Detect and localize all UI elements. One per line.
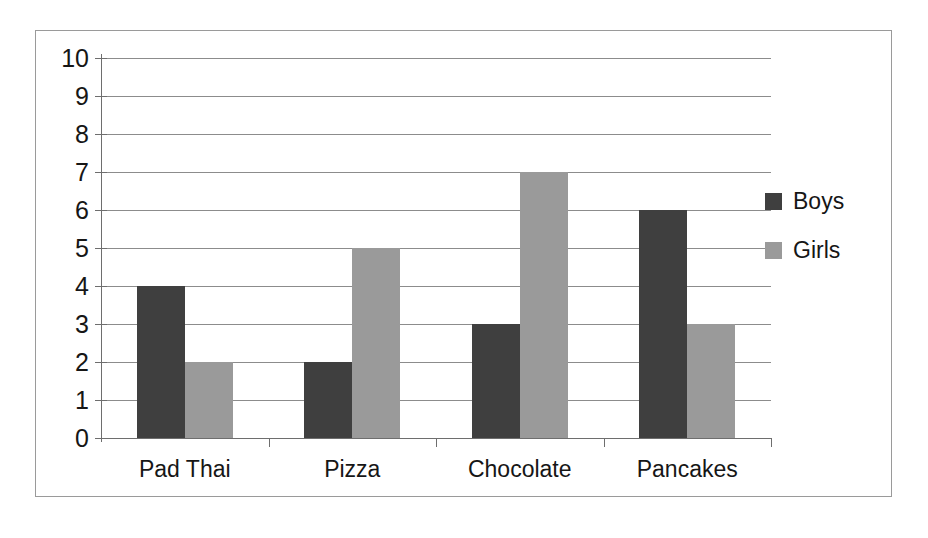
chart-legend: BoysGirls [765, 188, 844, 286]
y-axis-label-7: 7 [75, 160, 89, 185]
legend-label-boys: Boys [793, 188, 844, 215]
y-axis-label-8: 8 [75, 122, 89, 147]
y-axis-label-6: 6 [75, 198, 89, 223]
y-axis-label-0: 0 [75, 426, 89, 451]
bar-boys-pizza[interactable] [304, 362, 352, 438]
x-axis-separator-1 [436, 438, 437, 447]
bar-boys-pad-thai[interactable] [137, 286, 185, 438]
x-axis-label-chocolate: Chocolate [468, 456, 572, 483]
x-axis-separator-2 [604, 438, 605, 447]
x-axis-separator-3 [771, 438, 772, 447]
y-axis-label-2: 2 [75, 350, 89, 375]
y-axis-label-9: 9 [75, 84, 89, 109]
bar-girls-pizza[interactable] [352, 248, 400, 438]
y-axis-label-10: 10 [61, 46, 89, 71]
bar-girls-pad-thai[interactable] [185, 362, 233, 438]
bar-boys-chocolate[interactable] [472, 324, 520, 438]
plot-area: 109876543210 Pad ThaiPizzaChocolatePanca… [101, 58, 771, 438]
bar-girls-chocolate[interactable] [520, 172, 568, 438]
y-axis-label-5: 5 [75, 236, 89, 261]
bar-group-chocolate [436, 58, 604, 438]
x-axis-label-pizza: Pizza [324, 456, 380, 483]
x-axis-label-pad-thai: Pad Thai [139, 456, 231, 483]
y-axis-label-3: 3 [75, 312, 89, 337]
legend-swatch-girls-icon [765, 242, 782, 259]
y-axis-label-4: 4 [75, 274, 89, 299]
x-axis-separator-0 [269, 438, 270, 447]
y-axis-label-1: 1 [75, 388, 89, 413]
bar-girls-pancakes[interactable] [687, 324, 735, 438]
bar-group-pad-thai [101, 58, 269, 438]
legend-label-girls: Girls [793, 237, 840, 264]
legend-swatch-boys-icon [765, 193, 782, 210]
bar-group-pancakes [604, 58, 772, 438]
y-tick-0 [95, 438, 107, 439]
bar-chart-figure: 109876543210 Pad ThaiPizzaChocolatePanca… [35, 30, 892, 497]
legend-item-boys[interactable]: Boys [765, 188, 844, 215]
bar-boys-pancakes[interactable] [639, 210, 687, 438]
x-axis-label-pancakes: Pancakes [637, 456, 738, 483]
legend-item-girls[interactable]: Girls [765, 237, 844, 264]
bar-group-pizza [269, 58, 437, 438]
